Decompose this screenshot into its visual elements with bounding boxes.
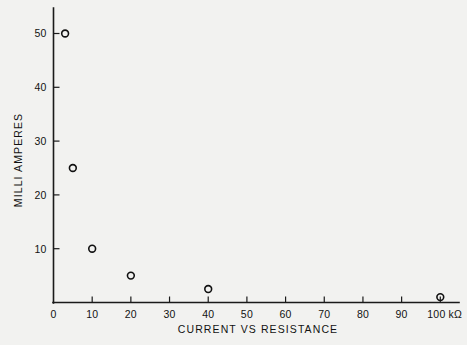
- y-axis-ticks: 1020304050: [34, 27, 59, 254]
- y-tick-label: 30: [34, 135, 46, 147]
- x-tick-label: 0: [50, 308, 56, 320]
- x-tick-label: 40: [202, 308, 214, 320]
- x-tick-label: 10: [86, 308, 98, 320]
- scatter-plot: 1020304050 0102030405060708090100 kΩ MIL…: [0, 0, 467, 345]
- x-tick-label-unit: 100 kΩ: [427, 308, 462, 320]
- x-tick-label: 90: [396, 308, 408, 320]
- x-tick-label: 70: [318, 308, 330, 320]
- x-axis-ticks: 0102030405060708090100 kΩ: [50, 297, 462, 320]
- chart-figure: 1020304050 0102030405060708090100 kΩ MIL…: [0, 0, 467, 345]
- x-tick-label: 80: [357, 308, 369, 320]
- data-point-marker: [127, 272, 134, 279]
- y-tick-label: 40: [34, 81, 46, 93]
- x-tick-label: 30: [163, 308, 175, 320]
- x-axis-title: CURRENT VS RESISTANCE: [178, 323, 338, 335]
- y-axis-title: MILLI AMPERES: [12, 113, 24, 207]
- data-point-markers: [62, 30, 444, 300]
- x-tick-label: 60: [280, 308, 292, 320]
- y-tick-label: 50: [34, 27, 46, 39]
- y-tick-label: 20: [34, 189, 46, 201]
- data-point-marker: [69, 165, 76, 172]
- x-tick-label: 50: [241, 308, 253, 320]
- data-point-marker: [205, 286, 212, 293]
- data-point-marker: [62, 30, 69, 37]
- y-tick-label: 10: [34, 243, 46, 255]
- x-tick-label: 20: [125, 308, 137, 320]
- data-point-marker: [89, 245, 96, 252]
